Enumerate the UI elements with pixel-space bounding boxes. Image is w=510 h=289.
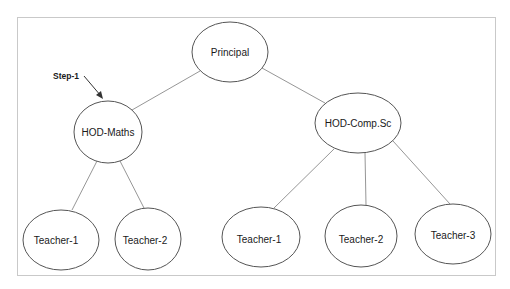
node-label: Teacher-1 [34,235,79,246]
node-label: Teacher-2 [339,234,384,245]
node-label: HOD-Comp.Sc [325,118,392,129]
node-maths-teacher-1[interactable]: Teacher-1 [23,210,99,270]
node-label: Teacher-1 [237,234,282,245]
node-compsc-teacher-1[interactable]: Teacher-1 [222,207,300,267]
node-label: Teacher-2 [123,235,168,246]
node-label: Principal [211,47,249,58]
node-principal[interactable]: Principal [192,22,268,82]
node-label: Teacher-3 [431,230,476,241]
node-hod-maths[interactable]: HOD-Maths [74,101,142,163]
step-1-label: Step-1 [53,71,79,81]
node-hod-compsc[interactable]: HOD-Comp.Sc [315,93,401,153]
org-hierarchy-diagram: Step-1 Principal HOD-Maths HOD-Comp.Sc T… [0,0,510,289]
node-compsc-teacher-3[interactable]: Teacher-3 [415,204,491,264]
node-label: HOD-Maths [82,127,135,138]
node-compsc-teacher-2[interactable]: Teacher-2 [325,205,397,267]
node-maths-teacher-2[interactable]: Teacher-2 [115,208,181,270]
